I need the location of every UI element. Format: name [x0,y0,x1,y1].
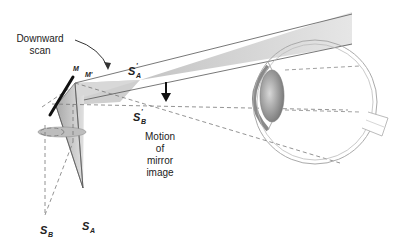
svg-text:A: A [135,72,141,79]
label-sa-prime: S A ' [128,62,141,79]
label-downward: Downward [16,33,63,44]
svg-text:S: S [82,220,90,232]
label-image: image [146,167,174,178]
svg-text:B: B [48,231,53,238]
label-sa: S A [82,220,95,234]
label-motion: Motion [145,131,175,142]
reflected-beam [55,12,352,106]
downward-scan-arrow [75,40,111,70]
svg-text:': ' [136,62,138,69]
svg-text:': ' [141,108,143,115]
svg-text:S: S [128,65,136,77]
label-scan: scan [29,45,50,56]
label-of: of [156,143,165,154]
svg-text:S: S [133,111,141,123]
svg-text:B: B [141,118,146,125]
svg-text:A: A [89,227,95,234]
optical-scanning-diagram: Downward scan M M' S A ' S B ' Motion of… [0,0,398,248]
motion-down-arrow [161,82,171,102]
label-m-prime: M' [85,71,93,78]
label-mirror: mirror [147,155,174,166]
svg-text:S: S [40,224,48,236]
label-m: M [73,65,79,72]
label-sb-prime: S B ' [133,108,146,125]
eye [253,40,388,164]
label-sb: S B [40,224,53,238]
